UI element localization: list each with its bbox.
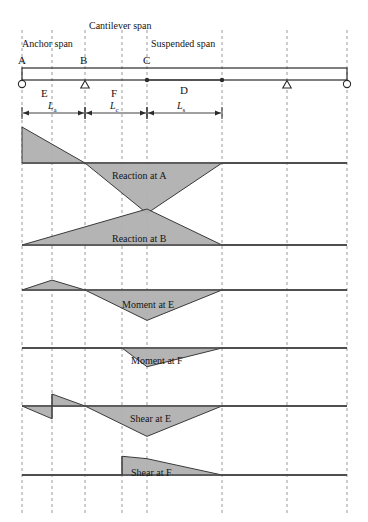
figure-canvas	[0, 0, 368, 522]
support-A	[18, 80, 25, 87]
dim-arrow-right-Lc	[140, 110, 146, 115]
diagram-label-moment-at-F: Moment at F	[131, 356, 183, 366]
point-label-E: E	[41, 88, 48, 99]
dim-arrow-right-Ls	[215, 110, 221, 115]
panel-reaction-at-A	[22, 127, 347, 213]
panel-moment-at-F	[22, 348, 347, 367]
dim-subscript-Ls: s	[183, 106, 186, 114]
hinge-C	[145, 78, 149, 82]
influence-shape-reaction-at-A	[22, 127, 347, 213]
point-label-D: D	[180, 85, 188, 96]
influence-shape-moment-at-F	[22, 348, 347, 367]
dim-subscript-Lc: c	[116, 106, 119, 114]
diagram-label-moment-at-E: Moment at E	[122, 300, 174, 310]
point-label-F: F	[111, 88, 117, 99]
diagram-label-shear-at-E: Shear at E	[130, 414, 171, 424]
panel-shear-at-E	[22, 394, 347, 436]
dim-subscript-La: a	[54, 106, 57, 114]
hinge-suspended	[220, 78, 224, 82]
dim-label-Ls: Ls	[177, 101, 185, 114]
dim-arrow-left-Ls	[148, 110, 154, 115]
span-label-suspended: Suspended span	[151, 39, 215, 49]
span-label-anchor: Anchor span	[22, 39, 73, 49]
dim-label-La: La	[48, 101, 57, 114]
influence-shape-reaction-at-B	[22, 209, 347, 245]
panel-shear-at-F	[22, 456, 347, 475]
diagram-label-reaction-at-B: Reaction at B	[112, 234, 166, 244]
support-right-end	[343, 80, 350, 87]
diagram-label-shear-at-F: Shear at F	[131, 468, 172, 478]
influence-shape-moment-at-E	[22, 280, 347, 320]
beam-outline	[22, 68, 347, 80]
dim-arrow-left-La	[23, 110, 29, 115]
beam-group	[22, 68, 347, 80]
support-B	[81, 81, 90, 89]
diagram-label-reaction-at-A: Reaction at A	[112, 171, 166, 181]
point-label-C: C	[143, 55, 150, 66]
point-label-B: B	[80, 55, 87, 66]
dim-label-Lc: Lc	[110, 101, 119, 114]
point-label-A: A	[18, 55, 26, 66]
span-label-cantilever: Cantilever span	[89, 21, 151, 31]
panel-reaction-at-B	[22, 209, 347, 245]
panel-moment-at-E	[22, 280, 347, 320]
support-right-roller	[283, 81, 292, 89]
influence-shape-shear-at-F	[22, 456, 347, 475]
influence-shape-shear-at-E	[22, 394, 347, 436]
dim-arrow-right-La	[78, 110, 84, 115]
dim-arrow-left-Lc	[86, 110, 92, 115]
influence-line-figure: Cantilever spanAnchor spanSuspended span…	[0, 0, 368, 522]
